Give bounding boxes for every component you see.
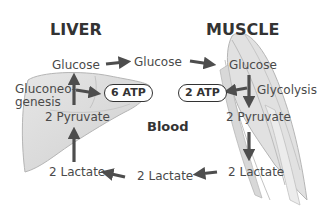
muscle-lactate-label: 2 Lactate [228, 166, 284, 178]
liver-atp-badge: 6 ATP [104, 84, 153, 102]
blood-label: Blood [147, 119, 189, 134]
muscle-atp-badge: 2 ATP [178, 84, 227, 102]
arrow-muscle-to-blood-lactate [199, 172, 217, 174]
arrow-liver-to-blood-glucose [106, 62, 125, 64]
muscle-glucose-label: Glucose [229, 59, 277, 71]
arrow-blood-to-muscle-glucose [190, 61, 210, 64]
cori-cycle-diagram: LIVER MUSCLE Blood Glucose Glucose Gluco… [0, 0, 325, 217]
arrow-blood-to-liver-lactate [107, 173, 125, 177]
liver-lactate-label: 2 Lactate [49, 166, 105, 178]
blood-lactate-label: 2 Lactate [137, 170, 193, 182]
muscle-pyruvate-label: 2 Pyruvate [226, 111, 291, 123]
muscle-title: MUSCLE [206, 22, 279, 38]
liver-title: LIVER [50, 22, 102, 38]
liver-glucose-label: Glucose [52, 59, 100, 71]
glycolysis-label: Glycolysis [257, 84, 317, 96]
gluconeogenesis-label-1: Gluconeo- [15, 83, 76, 95]
gluconeogenesis-label-2: genesis [15, 96, 61, 108]
liver-pyruvate-label: 2 Pyruvate [45, 111, 110, 123]
blood-glucose-label: Glucose [134, 56, 182, 68]
